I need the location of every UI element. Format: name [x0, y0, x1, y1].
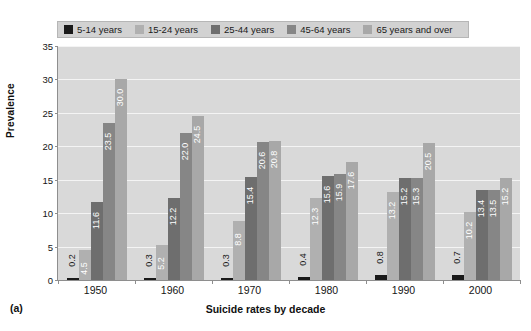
bar-group: 0.24.511.623.530.0: [58, 46, 135, 280]
bar-value-label: 13.5: [489, 199, 498, 217]
bar[interactable]: 13.5: [488, 190, 500, 280]
bar-value-label: 13.2: [388, 201, 397, 219]
legend-swatch-icon: [135, 25, 144, 34]
x-tick-label: 1950: [84, 284, 107, 296]
legend-item[interactable]: 15-24 years: [135, 25, 198, 35]
bar[interactable]: 23.5: [103, 123, 115, 280]
bar-value-label: 20.8: [270, 151, 279, 169]
legend-item-label: 5-14 years: [77, 25, 122, 35]
bar-value-label: 15.2: [501, 188, 510, 206]
bar[interactable]: 15.2: [500, 178, 512, 280]
bar-group: 0.412.315.615.917.6: [289, 46, 366, 280]
bar-value-label: 11.6: [92, 213, 101, 230]
x-tick-label: 1960: [161, 284, 184, 296]
bar-value-label: 23.5: [104, 133, 113, 151]
bar-value-label: 17.6: [347, 172, 356, 190]
bar[interactable]: 11.6: [91, 202, 103, 280]
bar[interactable]: 15.9: [334, 174, 346, 280]
y-tick-label: 35: [31, 41, 53, 52]
bar-value-label: 13.4: [477, 200, 486, 218]
bar-value-label: 30.0: [116, 89, 125, 107]
bar[interactable]: 15.6: [322, 176, 334, 280]
legend-swatch-icon: [363, 25, 372, 34]
bar[interactable]: 20.5: [423, 143, 435, 280]
bar-value-label: 12.2: [169, 208, 178, 226]
bar[interactable]: 13.2: [387, 192, 399, 280]
bar-value-label: 15.6: [323, 185, 332, 203]
bar-value-label: 22.0: [181, 143, 190, 161]
legend-swatch-icon: [287, 25, 296, 34]
bar-value-label: 0.7: [453, 252, 462, 265]
bar-value-label: 12.3: [311, 208, 320, 226]
x-tick-label: 1970: [238, 284, 261, 296]
bar[interactable]: 24.5: [192, 116, 204, 280]
bar[interactable]: 13.4: [476, 190, 488, 280]
bar-value-label: 0.2: [68, 254, 77, 267]
y-tick-label: 10: [31, 208, 53, 219]
bar[interactable]: 15.4: [245, 177, 257, 280]
chart-legend: 5-14 years15-24 years25-44 years45-64 ye…: [57, 21, 469, 38]
bar[interactable]: 15.3: [411, 178, 423, 280]
bar[interactable]: 10.2: [464, 212, 476, 280]
bar-value-label: 15.2: [400, 188, 409, 206]
bar-value-label: 0.3: [145, 254, 154, 267]
x-axis-line: [58, 280, 520, 281]
bar[interactable]: 15.2: [399, 178, 411, 280]
legend-swatch-icon: [64, 25, 73, 34]
bar-value-label: 0.3: [222, 254, 231, 267]
bar[interactable]: 8.8: [233, 221, 245, 280]
bar-value-label: 20.5: [424, 153, 433, 171]
x-axis-title: Suicide rates by decade: [0, 303, 531, 315]
bar-value-label: 24.5: [193, 126, 202, 144]
y-tick-label: 30: [31, 74, 53, 85]
legend-item-label: 45-64 years: [300, 25, 350, 35]
bar-value-label: 10.2: [465, 222, 474, 240]
panel-label: (a): [10, 302, 23, 314]
bar-value-label: 0.4: [299, 254, 308, 267]
plot-inner: 051015202530350.24.511.623.530.00.35.212…: [58, 46, 520, 280]
bar-value-label: 0.8: [376, 251, 385, 264]
legend-item[interactable]: 25-44 years: [211, 25, 274, 35]
bar[interactable]: 5.2: [156, 245, 168, 280]
bar-value-label: 5.2: [157, 257, 166, 270]
x-tick-mark: [520, 280, 521, 284]
bar[interactable]: 22.0: [180, 133, 192, 280]
y-axis-title: Prevalence: [5, 83, 16, 138]
x-tick-label: 1980: [315, 284, 338, 296]
bar-value-label: 20.6: [258, 152, 267, 170]
legend-item-label: 25-44 years: [224, 25, 274, 35]
bar-group: 0.710.213.413.515.2: [443, 46, 520, 280]
bar[interactable]: 4.5: [79, 250, 91, 280]
bar-group: 0.35.212.222.024.5: [135, 46, 212, 280]
bar[interactable]: 12.3: [310, 198, 322, 280]
y-tick-label: 0: [31, 275, 53, 286]
bar[interactable]: 30.0: [115, 79, 127, 280]
legend-item[interactable]: 5-14 years: [64, 25, 122, 35]
y-tick-label: 25: [31, 107, 53, 118]
bar-value-label: 4.5: [80, 262, 89, 275]
x-tick-label: 1990: [392, 284, 415, 296]
legend-item-label: 65 years and over: [376, 25, 452, 35]
legend-item[interactable]: 45-64 years: [287, 25, 350, 35]
bar[interactable]: 17.6: [346, 162, 358, 280]
legend-swatch-icon: [211, 25, 220, 34]
bar[interactable]: 12.2: [168, 198, 180, 280]
y-tick-label: 5: [31, 241, 53, 252]
bar[interactable]: 20.6: [257, 142, 269, 280]
bar-group: 0.813.215.215.320.5: [366, 46, 443, 280]
y-tick-label: 15: [31, 174, 53, 185]
bar-value-label: 15.9: [335, 183, 344, 201]
bar-group: 0.38.815.420.620.8: [212, 46, 289, 280]
x-tick-label: 2000: [469, 284, 492, 296]
bar[interactable]: 20.8: [269, 141, 281, 280]
bar-value-label: 15.4: [246, 187, 255, 205]
bar-value-label: 15.3: [412, 187, 421, 205]
bar-value-label: 8.8: [234, 233, 243, 246]
legend-item-label: 15-24 years: [148, 25, 198, 35]
legend-item[interactable]: 65 years and over: [363, 25, 452, 35]
y-tick-label: 20: [31, 141, 53, 152]
suicide-rates-bar-chart-figure: 5-14 years15-24 years25-44 years45-64 ye…: [0, 0, 531, 331]
plot-area: 051015202530350.24.511.623.530.00.35.212…: [57, 46, 520, 280]
